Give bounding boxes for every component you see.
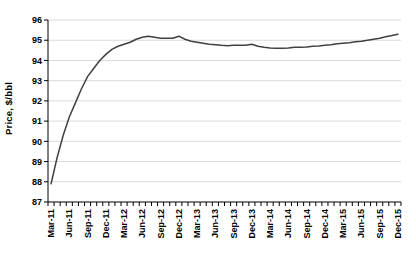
y-tick-label: 91 [32, 116, 42, 126]
x-tick-label: Jun-14 [283, 209, 293, 238]
x-tick-label: Sep-15 [375, 209, 385, 239]
x-tick-label: Mar-14 [265, 209, 275, 238]
chart-canvas: 87888990919293949596Mar-11Jun-11Sep-11De… [0, 0, 416, 258]
x-tick-label: Dec-11 [101, 209, 111, 238]
x-tick-label: Sep-12 [156, 209, 166, 239]
x-tick-label: Jun-15 [356, 209, 366, 238]
x-tick-label: Mar-15 [338, 209, 348, 238]
y-tick-label: 88 [32, 177, 42, 187]
y-tick-label: 94 [32, 56, 42, 66]
price-chart: Price, $/bbl 87888990919293949596Mar-11J… [0, 0, 416, 258]
x-tick-label: Dec-12 [174, 209, 184, 239]
y-tick-label: 89 [32, 157, 42, 167]
x-tick-label: Mar-11 [46, 209, 56, 238]
x-tick-label: Dec-14 [320, 209, 330, 239]
x-tick-label: Jun-12 [137, 209, 147, 238]
y-tick-label: 90 [32, 137, 42, 147]
x-tick-label: Mar-13 [192, 209, 202, 238]
y-tick-label: 93 [32, 76, 42, 86]
x-tick-label: Sep-13 [229, 209, 239, 239]
x-tick-label: Jun-13 [210, 209, 220, 238]
y-tick-label: 95 [32, 35, 42, 45]
x-tick-label: Dec-15 [393, 209, 403, 239]
x-tick-label: Mar-12 [119, 209, 129, 238]
y-tick-label: 96 [32, 15, 42, 25]
y-tick-label: 92 [32, 96, 42, 106]
x-tick-label: Dec-13 [247, 209, 257, 239]
x-tick-label: Sep-14 [302, 209, 312, 239]
y-tick-label: 87 [32, 197, 42, 207]
x-tick-label: Sep-11 [83, 209, 93, 238]
x-tick-label: Jun-11 [64, 209, 74, 238]
